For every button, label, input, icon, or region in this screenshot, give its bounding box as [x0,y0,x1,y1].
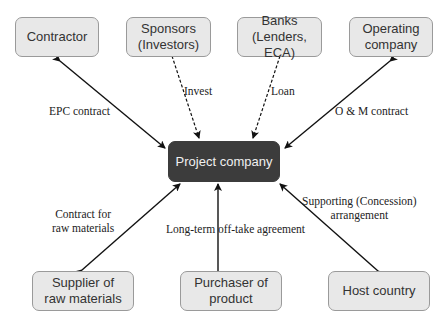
node-label: Sponsors [141,21,196,37]
edge-label-line: raw materials [52,221,114,235]
edge-label-line: Supporting (Concession) [302,194,417,208]
node-sublabel: raw materials [44,291,121,307]
node-label: Purchaser of [194,275,268,291]
edge-label-line: Contract for [52,207,114,221]
node-sponsors: Sponsors (Investors) [126,17,211,57]
node-sublabel: (Lenders, ECA) [238,29,321,61]
edge-label-invest: Invest [184,84,212,98]
edge-label-supporting: Supporting (Concession) arrangement [302,194,417,222]
node-label: Project company [176,154,273,170]
edge-label-offtake: Long-term off-take agreement [166,222,305,236]
node-label: Banks [261,13,297,29]
node-sublabel: (Investors) [138,37,199,53]
node-label: Host country [343,283,416,299]
node-contractor: Contractor [15,17,99,57]
node-sublabel: company [365,37,418,53]
node-label: Contractor [27,29,88,45]
edge-label-epc: EPC contract [49,104,110,118]
edge-label-om: O & M contract [335,104,408,118]
node-operating-company: Operating company [349,17,433,57]
node-host-country: Host country [328,271,430,311]
node-supplier: Supplier of raw materials [32,271,134,311]
node-purchaser: Purchaser of product [180,271,282,311]
node-banks: Banks (Lenders, ECA) [237,17,322,57]
node-project-company: Project company [168,141,280,182]
edge-label-loan: Loan [271,84,295,98]
edge-label-line: arrangement [302,208,417,222]
project-finance-diagram: Contractor Sponsors (Investors) Banks (L… [0,0,448,326]
node-label: Supplier of [52,275,114,291]
edge-label-raw-materials: Contract for raw materials [52,207,114,235]
node-sublabel: product [209,291,252,307]
node-label: Operating [362,21,419,37]
